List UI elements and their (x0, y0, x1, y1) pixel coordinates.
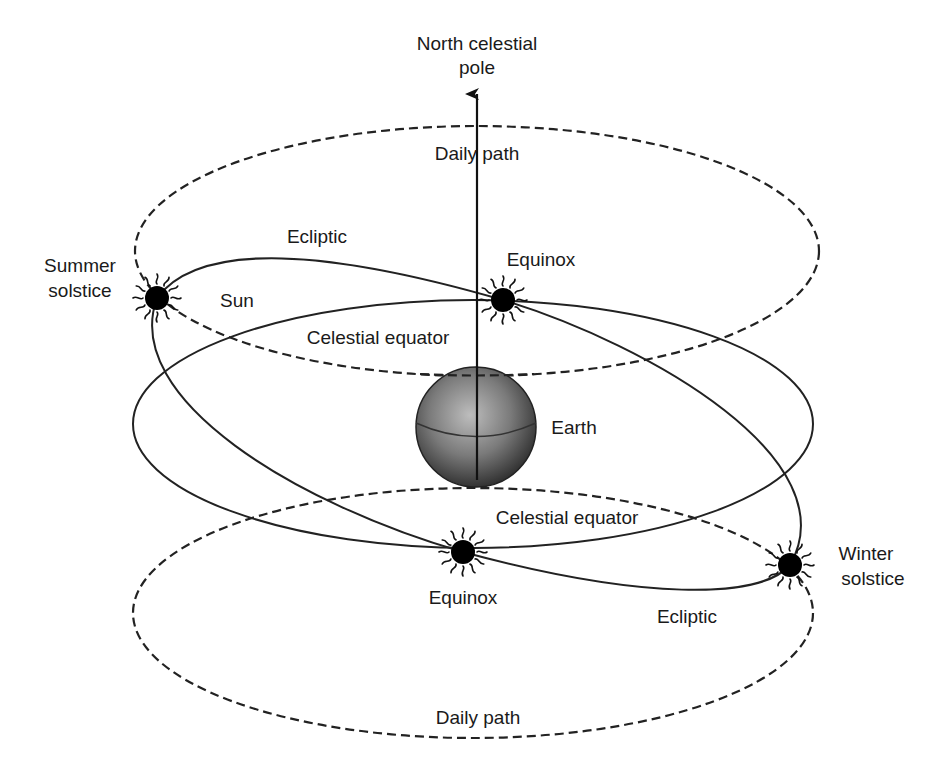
label-summer-solstice-2: solstice (48, 280, 111, 301)
label-sun: Sun (220, 290, 254, 311)
label-winter-solstice-2: solstice (841, 568, 904, 589)
label-equinox-top: Equinox (507, 249, 576, 270)
label-celestial-equator-bottom: Celestial equator (496, 507, 639, 528)
label-north-celestial-pole-2: pole (459, 57, 495, 78)
sun-icon (778, 553, 802, 577)
label-north-celestial-pole-1: North celestial (417, 33, 537, 54)
sun-icon (451, 540, 475, 564)
label-equinox-bottom: Equinox (429, 587, 498, 608)
sun-equinox-top (479, 276, 527, 324)
sun-icon (145, 286, 169, 310)
sun-icon (491, 288, 515, 312)
label-daily-path-top: Daily path (435, 143, 520, 164)
sun-equinox-bottom (439, 528, 487, 576)
label-winter-solstice-1: Winter (839, 543, 895, 564)
sun-winter-solstice (766, 541, 814, 589)
label-summer-solstice-1: Summer (44, 255, 116, 276)
label-ecliptic-top: Ecliptic (287, 226, 347, 247)
label-earth: Earth (551, 417, 596, 438)
label-celestial-equator-top: Celestial equator (307, 327, 450, 348)
label-daily-path-bottom: Daily path (436, 707, 521, 728)
label-ecliptic-bottom: Ecliptic (657, 606, 717, 627)
celestial-sphere-diagram: North celestial pole Daily path Ecliptic… (0, 0, 947, 776)
